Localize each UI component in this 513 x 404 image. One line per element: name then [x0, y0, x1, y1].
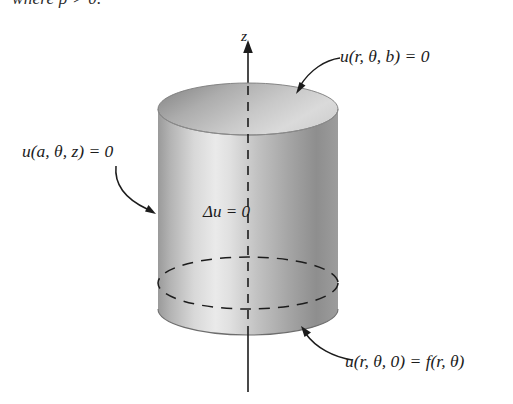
side-annotation-arrowhead-icon: [145, 205, 156, 214]
z-axis-label: z: [241, 28, 247, 44]
lateral-boundary-condition-label: u(a, θ, z) = 0: [22, 143, 113, 161]
top-boundary-condition-label: u(r, θ, b) = 0: [340, 48, 429, 66]
side-annotation-arrow: [116, 166, 156, 214]
bottom-boundary-condition-label: u(r, θ, 0) = f(r, θ): [345, 353, 464, 371]
interior-equation-label: Δu = 0: [203, 203, 250, 220]
cylinder-boundary-value-figure: where ρ > 0.: [0, 0, 513, 404]
top-annotation-arrow-curve: [300, 58, 340, 86]
side-annotation-arrow-curve: [116, 166, 147, 209]
z-axis: [243, 40, 253, 86]
cylinder-drawing: [0, 0, 513, 404]
